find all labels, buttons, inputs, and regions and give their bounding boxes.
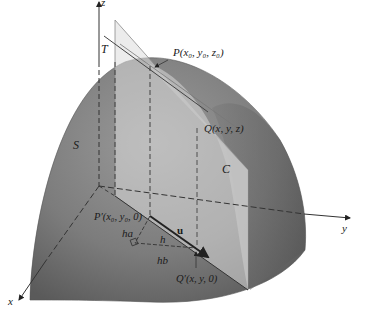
segment-label-hb: hb bbox=[157, 254, 169, 266]
figure-canvas: z y x T S C P(x₀, y₀, z₀) Q(x, y, z) P′(… bbox=[0, 0, 372, 327]
curve-label-c: C bbox=[222, 162, 231, 176]
plane-label-t: T bbox=[101, 42, 109, 56]
axis-label-z: z bbox=[100, 0, 106, 8]
vector-label-u: u bbox=[177, 224, 183, 236]
y-axis bbox=[304, 214, 350, 218]
axis-label-y: y bbox=[341, 222, 347, 234]
point-label-q: Q(x, y, z) bbox=[204, 122, 244, 135]
point-label-p-prime: P′(x₀, y₀, 0) bbox=[93, 211, 143, 223]
segment-label-h: h bbox=[160, 233, 166, 245]
surface-label-s: S bbox=[73, 138, 79, 152]
axis-label-x: x bbox=[7, 295, 13, 307]
point-label-q-prime: Q′(x, y, 0) bbox=[176, 273, 218, 285]
segment-label-ha: ha bbox=[122, 227, 134, 239]
point-label-p: P(x₀, y₀, z₀) bbox=[172, 46, 224, 59]
